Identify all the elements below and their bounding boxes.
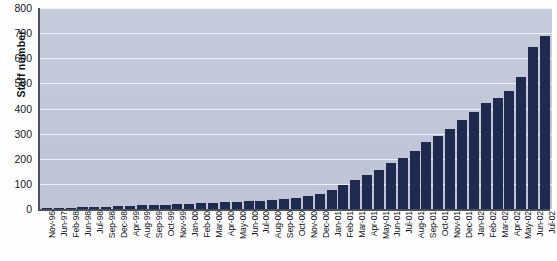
x-tick-label: Mar-00 xyxy=(214,211,224,238)
bar xyxy=(374,170,384,209)
x-tick-label: Oct-99 xyxy=(166,211,176,236)
x-tick-label: Dec-01 xyxy=(464,211,474,238)
x-tick-label: Apr-00 xyxy=(226,211,236,236)
x-tick-label: Jan-01 xyxy=(333,211,343,237)
x-tick-label: Apr-99 xyxy=(131,211,141,236)
bar xyxy=(279,199,289,209)
x-tick-label: May-02 xyxy=(523,211,533,239)
bar xyxy=(457,120,467,209)
x-tick-label: Jan-00 xyxy=(190,211,200,237)
x-tick-label: Jun-01 xyxy=(392,211,402,237)
x-tick-label: Dec-00 xyxy=(321,211,331,238)
x-tick-label: Jan-02 xyxy=(476,211,486,237)
bar xyxy=(481,103,491,209)
x-tick-label: Nov-99 xyxy=(178,211,188,238)
bar xyxy=(398,158,408,210)
x-tick-label: Jun-02 xyxy=(535,211,545,237)
x-tick-label: Mar-02 xyxy=(500,211,510,238)
x-tick-label: Jul-02 xyxy=(547,211,557,234)
y-tick-label: 300 xyxy=(14,128,32,140)
bar xyxy=(516,77,526,209)
bar xyxy=(528,47,538,209)
x-tick-label: May-01 xyxy=(381,211,391,239)
y-tick-label: 100 xyxy=(14,178,32,190)
x-tick-label: Mar-01 xyxy=(357,211,367,238)
x-tick-label: Jul-98 xyxy=(95,211,105,234)
plot-area xyxy=(38,8,552,209)
bar xyxy=(493,98,503,209)
x-tick-label: Jun-97 xyxy=(59,211,69,237)
x-tick-label: Jul-01 xyxy=(404,211,414,234)
bar xyxy=(469,112,479,209)
bar xyxy=(540,36,550,209)
x-tick-label: Apr-01 xyxy=(369,211,379,236)
bar xyxy=(362,175,372,209)
bar xyxy=(445,129,455,209)
y-tick-label: 0 xyxy=(26,203,32,215)
x-tick-label: Nov-96 xyxy=(47,211,57,238)
bar xyxy=(267,200,277,209)
bar xyxy=(315,194,325,209)
x-tick-label: Aug-01 xyxy=(416,211,426,238)
y-axis-tick-labels: 0100200300400500600700800 xyxy=(0,0,36,209)
bar xyxy=(504,91,514,209)
x-tick-label: Sep-98 xyxy=(107,211,117,238)
x-tick-label: Jul-00 xyxy=(261,211,271,234)
x-tick-label: Jun-98 xyxy=(83,211,93,237)
bar xyxy=(303,196,313,209)
bar xyxy=(386,163,396,209)
x-tick-label: Aug-99 xyxy=(142,211,152,238)
y-tick-label: 200 xyxy=(14,153,32,165)
y-tick-label: 800 xyxy=(14,2,32,14)
y-tick-label: 500 xyxy=(14,77,32,89)
x-tick-label: Feb-98 xyxy=(71,211,81,238)
y-tick-label: 400 xyxy=(14,103,32,115)
x-axis-tick-labels: Nov-96Jun-97Feb-98Jun-98Jul-98Sep-98Dec-… xyxy=(38,211,550,261)
x-tick-label: Feb-01 xyxy=(345,211,355,238)
bar xyxy=(255,201,265,209)
x-tick-label: Nov-01 xyxy=(452,211,462,238)
bar xyxy=(433,136,443,209)
bar-series xyxy=(40,8,552,209)
x-tick-label: Nov-00 xyxy=(309,211,319,238)
bar xyxy=(244,201,254,209)
bar xyxy=(350,180,360,209)
x-tick-label: Sep-99 xyxy=(154,211,164,238)
y-tick-label: 600 xyxy=(14,52,32,64)
x-tick-label: Dec-98 xyxy=(119,211,129,238)
x-tick-label: Sep-00 xyxy=(285,211,295,238)
x-tick-label: Sep-01 xyxy=(428,211,438,238)
x-tick-label: Feb-00 xyxy=(202,211,212,238)
bar xyxy=(291,198,301,209)
x-tick-label: Aug-00 xyxy=(273,211,283,238)
y-tick-label: 700 xyxy=(14,27,32,39)
bar xyxy=(421,142,431,209)
bar xyxy=(410,151,420,209)
x-tick-label: Feb-02 xyxy=(488,211,498,238)
x-tick-label: Oct-00 xyxy=(297,211,307,236)
bar xyxy=(327,190,337,209)
x-tick-label: Apr-02 xyxy=(512,211,522,236)
bar xyxy=(232,202,242,209)
bar xyxy=(338,185,348,209)
x-tick-label: Jun-00 xyxy=(250,211,260,237)
x-tick-label: May-00 xyxy=(238,211,248,239)
x-tick-label: Oct-01 xyxy=(440,211,450,236)
